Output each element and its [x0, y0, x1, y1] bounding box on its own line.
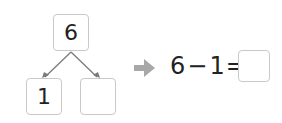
- answer-box[interactable]: [238, 50, 270, 82]
- equation: 6 − 1 =: [170, 50, 247, 82]
- whole-box: 6: [53, 14, 89, 51]
- right-arrow-icon: [134, 59, 155, 77]
- equation-right: 1: [209, 52, 224, 80]
- known-part-box: 1: [26, 78, 62, 115]
- equation-operator: −: [187, 52, 207, 80]
- whole-value: 6: [64, 20, 78, 45]
- known-part-value: 1: [37, 84, 51, 109]
- equation-left: 6: [170, 52, 185, 80]
- unknown-part-box[interactable]: [80, 78, 116, 115]
